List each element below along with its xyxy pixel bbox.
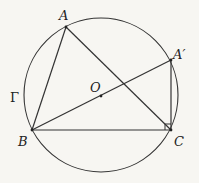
diagram-canvas: A A′ B C O Γ [0, 0, 199, 183]
label-o: O [90, 80, 101, 95]
segment-ab [32, 27, 66, 130]
label-a: A [58, 8, 68, 23]
label-b: B [17, 134, 28, 149]
point-b [31, 129, 34, 132]
point-o [100, 95, 103, 98]
label-gamma: Γ [10, 90, 19, 105]
point-a-prime [170, 59, 173, 62]
geometry-diagram: A A′ B C O Γ [0, 0, 199, 183]
point-a [65, 26, 68, 29]
label-c: C [174, 134, 184, 149]
segment-ac [66, 27, 171, 130]
point-c [170, 129, 173, 132]
label-a-prime: A′ [172, 47, 185, 62]
